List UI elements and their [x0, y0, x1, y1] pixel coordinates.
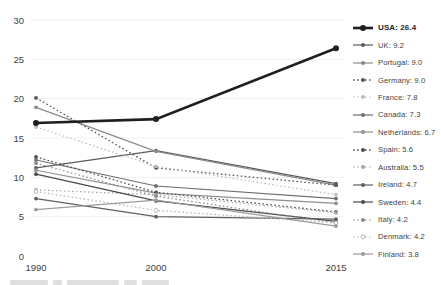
legend-label-portugal: Portugal: 9.0 [378, 58, 422, 67]
legend-marker [360, 25, 366, 31]
data-point-netherlands [34, 168, 38, 172]
legend-marker [361, 218, 365, 222]
chart-legend: USA: 26.4UK: 9.2Portugal: 9.0Germany: 9.… [352, 19, 441, 263]
x-axis-tick-label: 2015 [325, 262, 346, 273]
legend-marker [361, 61, 365, 65]
legend-item-denmark: Denmark: 4.2 [352, 228, 441, 245]
legend-label-finland: Finland: 3.8 [378, 250, 419, 259]
x-axis-tick-label: 1990 [25, 262, 46, 273]
legend-label-france: France: 7.8 [378, 93, 418, 102]
series-line-germany [36, 98, 336, 185]
caption-smudge [67, 280, 119, 285]
data-point-spain [34, 155, 38, 159]
y-axis-tick-label: 15 [13, 133, 24, 144]
figure-caption-cropped [10, 280, 169, 285]
data-point-france [154, 164, 158, 168]
caption-smudge [10, 280, 48, 285]
data-point-sweden [34, 172, 38, 176]
legend-line-sample-italy [352, 215, 374, 225]
data-point-germany [334, 183, 338, 187]
data-point-canada [334, 197, 338, 201]
legend-marker [361, 165, 365, 169]
x-axis-tick-label: 2000 [145, 262, 166, 273]
legend-item-germany: Germany: 9.0 [352, 71, 441, 88]
legend-line-sample-usa [352, 23, 374, 33]
legend-marker [361, 43, 365, 47]
data-point-canada [154, 184, 158, 188]
data-point-usa [333, 45, 339, 51]
data-point-usa [33, 120, 39, 126]
series-line-finland [36, 200, 336, 226]
legend-item-spain: Spain: 5.6 [352, 141, 441, 158]
legend-label-italy: Italy: 4.2 [378, 215, 408, 224]
legend-line-sample-france [352, 92, 374, 102]
legend-line-sample-finland [352, 249, 374, 259]
legend-line-sample-germany [352, 75, 374, 85]
series-line-sweden [36, 174, 336, 221]
series-line-portugal [36, 107, 336, 185]
data-point-netherlands [334, 201, 338, 205]
legend-marker [361, 252, 365, 256]
legend-line-sample-australia [352, 162, 374, 172]
legend-marker [361, 235, 365, 239]
series-line-italy [36, 163, 336, 223]
caption-smudge [142, 280, 169, 285]
legend-marker [361, 113, 365, 117]
legend-item-canada: Canada: 7.3 [352, 106, 441, 123]
data-point-denmark [154, 208, 158, 212]
legend-marker [361, 95, 365, 99]
legend-marker [361, 130, 365, 134]
legend-label-netherlands: Netherlands: 6.7 [378, 128, 435, 137]
legend-item-usa: USA: 26.4 [352, 19, 441, 36]
legend-line-sample-netherlands [352, 127, 374, 137]
data-point-ireland [154, 215, 158, 219]
legend-item-uk: UK: 9.2 [352, 36, 441, 53]
legend-marker [361, 200, 365, 204]
legend-marker [361, 78, 365, 82]
legend-label-usa: USA: 26.4 [378, 23, 416, 32]
legend-item-portugal: Portugal: 9.0 [352, 54, 441, 71]
legend-label-australia: Australia: 5.5 [378, 163, 424, 172]
y-axis-tick-label: 30 [13, 15, 24, 26]
legend-item-ireland: Ireland: 4.7 [352, 176, 441, 193]
legend-line-sample-denmark [352, 232, 374, 242]
legend-item-sweden: Sweden: 4.4 [352, 193, 441, 210]
legend-label-germany: Germany: 9.0 [378, 76, 425, 85]
legend-line-sample-ireland [352, 180, 374, 190]
data-point-france [334, 193, 338, 197]
legend-label-sweden: Sweden: 4.4 [378, 198, 421, 207]
y-axis-tick-label: 10 [13, 172, 24, 183]
legend-label-uk: UK: 9.2 [378, 41, 404, 50]
legend-line-sample-spain [352, 145, 374, 155]
legend-marker [361, 148, 365, 152]
data-point-italy [154, 194, 158, 198]
legend-item-finland: Finland: 3.8 [352, 246, 441, 263]
legend-label-spain: Spain: 5.6 [378, 145, 413, 154]
legend-line-sample-uk [352, 40, 374, 50]
y-axis-tick-label: 5 [19, 211, 24, 222]
data-point-portugal [154, 149, 158, 153]
legend-line-sample-portugal [352, 58, 374, 68]
y-axis-tick-label: 20 [13, 93, 24, 104]
legend-item-netherlands: Netherlands: 6.7 [352, 124, 441, 141]
line-chart-figure: 051015202530199020002015 USA: 26.4UK: 9.… [0, 0, 441, 285]
caption-smudge [124, 280, 137, 285]
legend-line-sample-canada [352, 110, 374, 120]
legend-item-italy: Italy: 4.2 [352, 211, 441, 228]
data-point-finland [334, 224, 338, 228]
data-point-portugal [34, 105, 38, 109]
data-point-italy [34, 161, 38, 165]
data-point-ireland [34, 197, 38, 201]
legend-line-sample-sweden [352, 197, 374, 207]
y-axis-tick-label: 0 [19, 251, 24, 262]
legend-marker [361, 183, 365, 187]
legend-item-australia: Australia: 5.5 [352, 159, 441, 176]
data-point-usa [153, 116, 159, 122]
legend-label-canada: Canada: 7.3 [378, 110, 420, 119]
legend-label-denmark: Denmark: 4.2 [378, 232, 425, 241]
data-point-finland [154, 198, 158, 202]
caption-smudge [53, 280, 62, 285]
data-point-australia [334, 211, 338, 215]
data-point-finland [34, 208, 38, 212]
y-axis-tick-label: 25 [13, 54, 24, 65]
